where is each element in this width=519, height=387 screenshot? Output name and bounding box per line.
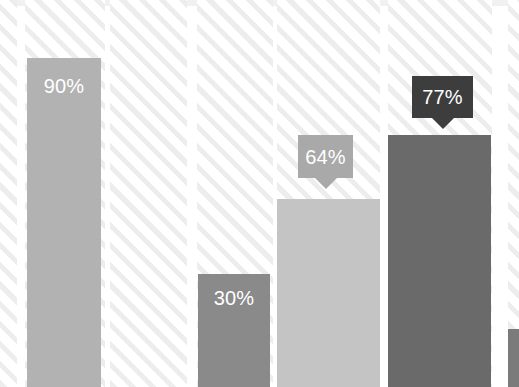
callout-77-text: 77%	[422, 87, 463, 107]
callout-64[interactable]: 64%	[298, 135, 353, 178]
bar-1[interactable]: 90%	[27, 58, 101, 387]
bar-2-value-label: 30%	[198, 288, 270, 308]
bar-3[interactable]	[277, 199, 380, 387]
bar-4[interactable]	[388, 135, 491, 387]
bar-2[interactable]: 30%	[198, 274, 270, 387]
bar-1-value-label: 90%	[27, 76, 101, 96]
callout-64-text: 64%	[305, 147, 346, 167]
hatch-track-1	[0, 0, 17, 387]
bar-5[interactable]	[508, 329, 519, 387]
hatch-track-3	[110, 0, 187, 387]
bar-chart-canvas: 90%30% 64%77%	[0, 0, 519, 387]
callout-77-pointer-icon	[432, 118, 454, 129]
callout-77[interactable]: 77%	[412, 76, 473, 118]
callout-64-pointer-icon	[315, 178, 337, 189]
